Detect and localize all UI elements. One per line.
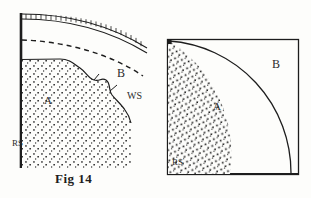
right-panel-label-rs: RS (172, 157, 183, 167)
left-panel-label-rs: RS (12, 138, 23, 148)
left-top-inner-arc (22, 19, 147, 53)
right-region-a-stipple (166, 38, 302, 176)
right-panel-group (166, 38, 302, 176)
left-panel-label-b: B (117, 66, 125, 81)
figure-container: A B WS RS A B RS Fig 14 (0, 0, 311, 198)
figure-caption: Fig 14 (55, 171, 92, 187)
left-ws-branch-2 (110, 85, 117, 91)
right-panel-label-b: B (272, 57, 280, 72)
left-region-a-shelf (21, 59, 60, 60)
right-panel-label-a: A (213, 100, 221, 112)
right-corner-nub (167, 39, 172, 44)
left-ws-branch-1 (94, 74, 99, 80)
left-panel-label-a: A (44, 94, 52, 106)
left-panel-label-ws: WS (127, 90, 142, 101)
